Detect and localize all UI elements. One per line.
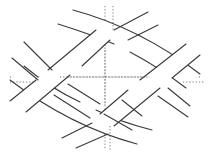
band-lower-right-strands (158, 88, 190, 117)
woven-bands-diagram (0, 0, 210, 154)
